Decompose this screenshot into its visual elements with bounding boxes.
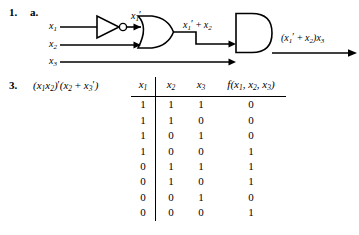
- cell-x2: 0: [156, 128, 187, 143]
- cell-f: 0: [216, 190, 286, 205]
- cell-x1: 0: [131, 174, 156, 189]
- input-label-x3: x3: [49, 55, 57, 68]
- cell-x3: 0: [186, 174, 216, 189]
- cell-x3: 1: [186, 159, 216, 174]
- arrowhead-and-input-top: [229, 40, 237, 47]
- arrowhead-and-input-bottom: [229, 58, 237, 65]
- cell-f: 1: [216, 144, 286, 159]
- cell-x2: 0: [156, 144, 187, 159]
- cell-x1: 1: [131, 97, 156, 113]
- cell-x1: 1: [131, 113, 156, 128]
- table-row: 1010: [131, 128, 286, 143]
- cell-x3: 1: [186, 97, 216, 113]
- or-gate-output-label: x1′ + x2: [183, 18, 212, 32]
- not-gate-bubble: [119, 23, 126, 30]
- cell-x3: 0: [186, 205, 216, 220]
- cell-x2: 1: [156, 113, 187, 128]
- cell-f: 1: [216, 159, 286, 174]
- cell-x1: 1: [131, 144, 156, 159]
- cell-x1: 0: [131, 159, 156, 174]
- cell-x3: 1: [186, 190, 216, 205]
- cell-f: 1: [216, 174, 286, 189]
- table-row: 0101: [131, 174, 286, 189]
- cell-x2: 0: [156, 190, 187, 205]
- column-header-x3: x3: [186, 77, 216, 97]
- table-row: 0111: [131, 159, 286, 174]
- cell-x3: 1: [186, 128, 216, 143]
- table-row: 0010: [131, 190, 286, 205]
- cell-x2: 1: [156, 174, 187, 189]
- not-gate-output-label: x1′: [131, 9, 141, 23]
- cell-f: 0: [216, 113, 286, 128]
- column-header-f: f(x1, x2, x3): [216, 77, 286, 97]
- circuit-output-label: (x1′ + x2)x3: [281, 31, 324, 45]
- truth-table-header: x1 x2 x3 f(x1, x2, x3): [131, 77, 286, 97]
- cell-x3: 0: [186, 144, 216, 159]
- table-row: 1110: [131, 97, 286, 113]
- arrowhead-or-input-top: [134, 23, 142, 30]
- table-row: 1001: [131, 144, 286, 159]
- and-gate-body: [236, 14, 272, 53]
- problem-1-block: 1. a.: [0, 0, 359, 75]
- column-header-x2: x2: [156, 77, 187, 97]
- cell-x3: 0: [186, 113, 216, 128]
- table-row: 1100: [131, 113, 286, 128]
- cell-f: 0: [216, 128, 286, 143]
- truth-table-header-row: x1 x2 x3 f(x1, x2, x3): [131, 77, 286, 97]
- problem-3-expression: (x1x2)′(x2 + x3′): [33, 79, 98, 93]
- cell-x2: 0: [156, 205, 187, 220]
- arrowhead-circuit-output: [348, 49, 357, 57]
- problem-3-number: 3.: [9, 79, 17, 91]
- input-label-x2: x2: [49, 38, 57, 51]
- problem-3-block: 3. (x1x2)′(x2 + x3′) x1 x2 x3 f(x1,: [0, 75, 359, 235]
- not-gate-triangle: [97, 16, 119, 38]
- or-gate-body: [138, 16, 174, 48]
- cell-f: 0: [216, 97, 286, 113]
- cell-x2: 1: [156, 159, 187, 174]
- input-label-x1: x1: [49, 20, 57, 33]
- truth-table: x1 x2 x3 f(x1, x2, x3) 11101100101010010…: [131, 77, 286, 221]
- cell-f: 1: [216, 205, 286, 220]
- cell-x1: 0: [131, 190, 156, 205]
- column-header-x1: x1: [131, 77, 156, 97]
- cell-x2: 1: [156, 97, 187, 113]
- cell-x1: 0: [131, 205, 156, 220]
- worksheet-page: 1. a.: [0, 0, 359, 235]
- cell-x1: 1: [131, 128, 156, 143]
- wire-or-to-and: [173, 32, 231, 44]
- truth-table-body: 11101100101010010111010100100001: [131, 97, 286, 221]
- table-row: 0001: [131, 205, 286, 220]
